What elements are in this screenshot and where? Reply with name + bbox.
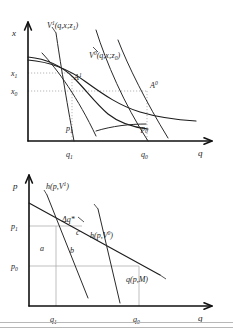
y-tick-p1: p1	[10, 222, 18, 232]
area-label-c: c	[76, 228, 80, 237]
x-axis-label-top: q	[198, 148, 203, 158]
point-label-a0: A0	[149, 80, 158, 90]
y-tick-x1: x1	[10, 69, 18, 79]
curve-label-h-v1: h(p,V1)	[46, 181, 69, 191]
guide-lines-bottom	[29, 226, 139, 306]
curve-label-v1: V1(q,x;z1)	[47, 20, 78, 31]
footer-rule-lower	[0, 327, 233, 328]
demand-curve-panel: p q p1 p0 q1 q0 h(p,V1) h(p,V0)	[0, 165, 233, 329]
hicksian-demand-v0	[98, 209, 120, 303]
indifference-curve-panel: x q x1 x0 q1 q0 V1(q,x;z1) V0(q,x;z0)	[0, 0, 233, 165]
x-tick-q1-bottom: q1	[50, 315, 57, 325]
price-label-p1: p1	[65, 124, 73, 134]
x-tick-q1: q1	[66, 150, 73, 160]
delta-q-star-label: Δq*	[61, 215, 75, 224]
indifference-curve-svg: x q x1 x0 q1 q0 V1(q,x;z1) V0(q,x;z0)	[0, 0, 233, 165]
curve-label-v0: V0(q,x;z0)	[89, 50, 120, 61]
hicksian-demand-v1	[47, 195, 88, 298]
indifference-curve-v0	[28, 60, 196, 121]
curve-label-h-v0: h(p,V0)	[90, 230, 113, 240]
demand-curve-svg: p q p1 p0 q1 q0 h(p,V1) h(p,V0)	[0, 165, 233, 329]
y-tick-x0: x0	[10, 87, 18, 97]
x-tick-q0: q0	[141, 150, 148, 160]
y-axis-label-bottom: p	[12, 181, 18, 191]
point-label-a1: A1	[73, 72, 82, 82]
curve-label-marshallian: q(p,M)	[126, 275, 148, 284]
budget-line-p1	[56, 33, 74, 141]
axes-bottom	[26, 175, 212, 309]
price-label-p0: p0	[140, 124, 148, 134]
y-tick-p0: p0	[10, 262, 18, 272]
y-axis-label-top: x	[11, 28, 16, 38]
x-tick-q0-bottom: q0	[133, 315, 140, 325]
footer-rule-upper	[0, 322, 233, 323]
area-label-b: b	[70, 246, 74, 255]
economics-figure: x q x1 x0 q1 q0 V1(q,x;z1) V0(q,x;z0)	[0, 0, 233, 329]
area-label-a: a	[40, 244, 44, 253]
